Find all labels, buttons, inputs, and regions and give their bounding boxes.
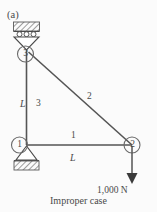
figure-label: (a): [7, 10, 19, 21]
roller-icon: [17, 32, 22, 37]
member-3-label: 3: [36, 99, 41, 109]
member-2-label: 2: [87, 92, 92, 102]
node-2-label: 2: [126, 140, 139, 150]
support-hatching-top: [14, 22, 40, 31]
node-1-label: 1: [13, 140, 26, 150]
roller-icon: [31, 32, 36, 37]
dimension-label-bottom: L: [70, 153, 76, 163]
member-1-label: 1: [71, 131, 76, 141]
figure-caption: Improper case: [0, 196, 157, 206]
dimension-label-left: L: [20, 99, 26, 109]
truss-figure: (a) 3 1 2 3 2 1 L L 1,000 N Improper cas…: [0, 0, 157, 212]
node-3-label: 3: [19, 49, 32, 59]
roller-icon: [24, 32, 29, 37]
member-2-line: [29, 52, 133, 145]
load-arrow-head: [127, 173, 138, 184]
support-hatching-bottom: [14, 161, 39, 170]
